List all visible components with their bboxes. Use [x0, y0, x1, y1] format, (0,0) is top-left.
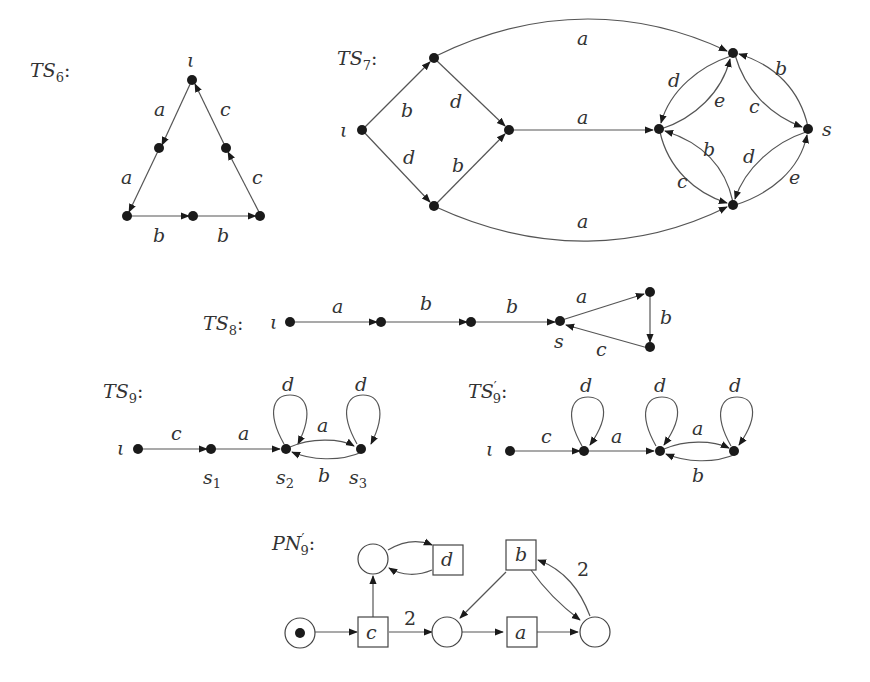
- ts9-prime-loop-d: [572, 397, 604, 446]
- ts8-state: [645, 287, 655, 297]
- pn9-prime-diagram: PN′9: c d a b 2 2: [271, 531, 610, 648]
- ts8-label-c: c: [596, 338, 607, 360]
- ts9-state-s2: [281, 444, 291, 454]
- pn-transition-b-label: b: [515, 543, 527, 565]
- ts9-prime-state-initial: [505, 446, 515, 456]
- ts9-state-s1-label: s1: [203, 466, 221, 491]
- ts6-label-a: a: [121, 166, 132, 188]
- pn-arc-p1-d: [388, 542, 432, 550]
- ts9-loop-d: [274, 395, 307, 444]
- ts9-prime-state: [579, 446, 589, 456]
- ts6-label-c: c: [252, 166, 263, 188]
- ts7-label-b: b: [452, 154, 464, 176]
- ts7-label-d: d: [743, 145, 755, 167]
- ts9-prime-label-a: a: [611, 425, 622, 447]
- ts9-label-d: d: [355, 373, 367, 395]
- ts8-state: [466, 317, 476, 327]
- ts8-label-a: a: [332, 295, 343, 317]
- ts6-state: [221, 143, 231, 153]
- ts7-state-s-label: s: [822, 118, 832, 140]
- ts9-prime-label-d: d: [729, 374, 741, 396]
- pn-transition-a-label: a: [515, 621, 526, 643]
- ts7-diagram: TS7: ι s a a a b d d b: [337, 19, 832, 241]
- pn-arc-b-p2: [460, 572, 506, 618]
- ts6-label-b: b: [217, 224, 229, 246]
- ts7-state: [429, 201, 439, 211]
- ts8-state-s: [555, 316, 565, 326]
- ts8-diagram: TS8: ι a b b a b c s: [203, 285, 672, 360]
- ts8-label-b: b: [420, 292, 432, 314]
- ts7-label-d: d: [403, 146, 415, 168]
- ts8-state: [645, 342, 655, 352]
- pn-place: [358, 544, 388, 574]
- ts6-edge-a2: [129, 149, 159, 212]
- ts8-initial-label: ι: [270, 311, 277, 333]
- ts8-state-s-label: s: [554, 330, 564, 352]
- ts7-label-d: d: [668, 69, 680, 91]
- ts9-prime-state: [655, 446, 665, 456]
- ts9-prime-loop-d: [646, 397, 678, 446]
- ts9-edge-b: [292, 452, 362, 459]
- ts9-prime-title: TS′9:: [468, 379, 507, 406]
- ts7-edge-b: [362, 62, 430, 130]
- ts7-label-c: c: [677, 170, 688, 192]
- ts7-label-d: d: [450, 90, 462, 112]
- ts7-label-a: a: [577, 106, 588, 128]
- ts7-label-b: b: [401, 99, 413, 121]
- ts9-label-d: d: [282, 373, 294, 395]
- ts8-edge-tri-c: [566, 325, 648, 348]
- ts7-label-a: a: [577, 27, 588, 49]
- ts7-label-e: e: [714, 89, 725, 111]
- ts8-state: [376, 317, 386, 327]
- ts6-state: [154, 143, 164, 153]
- pn-transition-c-label: c: [366, 621, 377, 643]
- ts9-prime-label-a: a: [692, 417, 703, 439]
- pn-arc-weight: 2: [577, 558, 589, 580]
- ts6-label-c: c: [220, 98, 231, 120]
- ts8-edge-tri-a: [562, 294, 644, 320]
- ts7-label-a: a: [577, 210, 588, 232]
- ts9-prime-initial-label: ι: [486, 438, 493, 460]
- ts8-label-b: b: [506, 295, 518, 317]
- ts7-state: [504, 125, 514, 135]
- ts9-diagram: TS9: ι c a d d a b s1 s2 s3: [103, 373, 380, 491]
- ts8-label-b: b: [660, 306, 672, 328]
- ts6-state: [255, 211, 265, 221]
- ts7-state: [654, 124, 664, 134]
- ts7-state-initial: [357, 125, 367, 135]
- ts7-edge-d: [436, 60, 505, 126]
- ts9-state-s3: [356, 444, 366, 454]
- pn-arc-d-p1: [389, 568, 432, 574]
- pn-token: [295, 628, 305, 638]
- ts8-state-initial: [285, 317, 295, 327]
- ts6-state-initial: [187, 75, 197, 85]
- ts9-state-s3-label: s3: [349, 466, 367, 491]
- ts9-label-a: a: [317, 414, 328, 436]
- ts7-edge-d: [362, 130, 430, 202]
- ts9-prime-label-d: d: [580, 374, 592, 396]
- ts9-prime-loop-d: [721, 397, 753, 446]
- ts6-state: [122, 211, 132, 221]
- ts9-prime-edge-a: [664, 442, 729, 449]
- ts9-state-s1: [206, 444, 216, 454]
- ts7-edge-c: [660, 132, 727, 203]
- ts7-label-b: b: [775, 57, 787, 79]
- ts9-prime-diagram: TS′9: ι c a d d d a b: [468, 374, 753, 486]
- ts7-title: TS7:: [337, 47, 377, 73]
- ts9-initial-label: ι: [117, 437, 124, 459]
- ts9-prime-label-b: b: [692, 464, 704, 486]
- ts7-state: [429, 53, 439, 63]
- ts7-state: [728, 200, 738, 210]
- ts9-loop-d: [347, 395, 380, 444]
- ts9-state-s2-label: s2: [276, 466, 294, 491]
- ts7-state: [728, 48, 738, 58]
- ts8-label-a: a: [576, 285, 587, 307]
- pn-place: [580, 617, 610, 647]
- ts9-label-a: a: [238, 422, 249, 444]
- ts6-label-a: a: [154, 98, 165, 120]
- pn-arc-b-p3: [531, 570, 580, 620]
- pn-arc-weight: 2: [404, 607, 416, 629]
- ts7-label-c: c: [749, 95, 760, 117]
- diagram-canvas: TS6: ι a a b b c c TS7: ι s: [0, 0, 870, 682]
- ts6-label-b: b: [153, 224, 165, 246]
